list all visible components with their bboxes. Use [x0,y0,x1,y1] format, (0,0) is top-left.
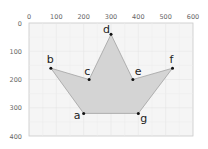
point-e [131,78,134,81]
x-tick-label: 0 [27,13,31,21]
x-tick-label: 300 [105,13,117,21]
x-tick-label: 400 [132,13,144,21]
x-tick-label: 600 [187,13,199,21]
x-tick-label: 500 [159,13,171,21]
y-axis-ticks: 0100200300400 [10,20,22,141]
point-label-c: c [84,65,90,78]
point-label-e: e [135,65,142,78]
point-label-a: a [74,109,81,122]
crown-polygon-chart: 0100200300400500600 0100200300400 abcdef… [0,0,208,149]
point-a [82,112,85,115]
y-tick-label: 300 [10,104,22,112]
x-tick-label: 100 [50,13,62,21]
point-label-b: b [47,53,54,66]
point-f [171,67,174,70]
y-tick-label: 0 [18,20,22,28]
point-label-g: g [140,112,147,125]
y-tick-label: 200 [10,76,22,84]
point-label-d: d [103,23,110,36]
y-tick-label: 100 [10,48,22,56]
y-tick-label: 400 [10,133,22,141]
point-c [88,78,91,81]
point-b [49,67,52,70]
x-tick-label: 200 [77,13,89,21]
x-axis-ticks: 0100200300400500600 [27,13,199,21]
